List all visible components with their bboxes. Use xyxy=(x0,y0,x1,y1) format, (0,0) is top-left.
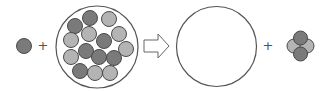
particle xyxy=(112,27,127,42)
particle xyxy=(88,66,103,81)
container-outline xyxy=(177,7,257,87)
particle xyxy=(103,66,118,81)
plus-sign-1: + xyxy=(38,38,49,53)
lone-particle xyxy=(17,39,32,54)
diagram-stage: + + xyxy=(0,0,320,91)
full-container xyxy=(56,6,138,88)
particle xyxy=(73,64,88,79)
particle xyxy=(102,12,117,27)
particle xyxy=(97,34,112,49)
particle xyxy=(294,47,308,61)
particle xyxy=(107,51,122,66)
empty-container xyxy=(177,7,257,87)
particle xyxy=(294,31,308,45)
particle xyxy=(68,19,83,34)
particle xyxy=(64,33,79,48)
particle xyxy=(17,39,32,54)
particle-cluster xyxy=(287,31,314,61)
reaction-diagram: + + xyxy=(0,0,320,91)
particle xyxy=(82,27,97,42)
right-arrow-icon xyxy=(144,34,169,58)
plus-sign-2: + xyxy=(263,38,274,53)
particle xyxy=(64,50,79,65)
particle xyxy=(92,50,107,65)
particle xyxy=(83,11,98,26)
